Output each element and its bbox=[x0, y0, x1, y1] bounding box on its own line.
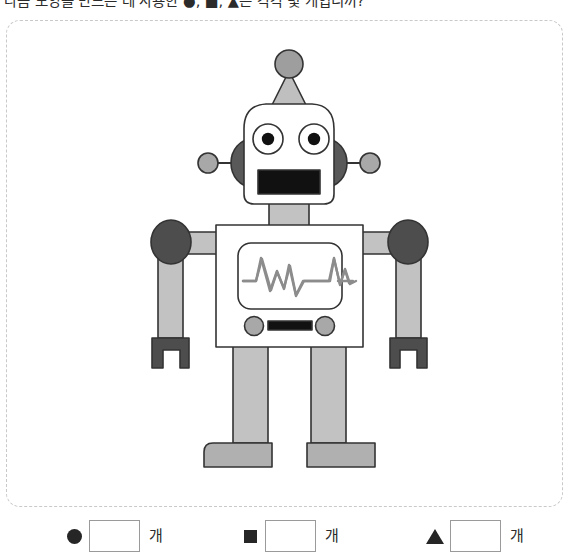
circle-symbol-icon bbox=[62, 521, 86, 551]
circle-count-unit-label: 개 bbox=[149, 529, 163, 544]
question-prompt: 다음 모양을 만드는 데 사용한 ●, ■, ▲은 각각 몇 개입니까? bbox=[4, 0, 569, 11]
circle-count-input[interactable] bbox=[89, 520, 140, 552]
answer-group-square: 개 bbox=[238, 514, 339, 558]
figure-frame bbox=[6, 20, 563, 507]
answer-group-circle: 개 bbox=[62, 514, 163, 558]
triangle-symbol-icon bbox=[423, 521, 447, 551]
answer-row: 개 개 개 bbox=[0, 514, 573, 558]
triangle-count-input[interactable] bbox=[450, 520, 501, 552]
square-count-input[interactable] bbox=[265, 520, 316, 552]
triangle-count-unit-label: 개 bbox=[510, 529, 524, 544]
square-symbol-icon bbox=[238, 521, 262, 551]
answer-group-triangle: 개 bbox=[423, 514, 524, 558]
square-count-unit-label: 개 bbox=[325, 529, 339, 544]
